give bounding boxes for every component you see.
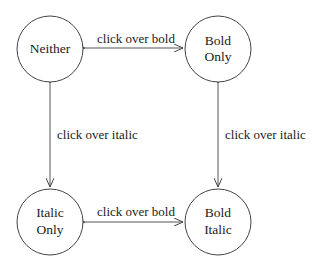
node-bold-only: Bold Only xyxy=(185,16,251,82)
state-diagram: click over bold click over bold click ov… xyxy=(0,0,319,273)
svg-text:Italic: Italic xyxy=(36,205,64,220)
svg-text:Only: Only xyxy=(37,222,64,237)
svg-text:Bold: Bold xyxy=(205,33,232,48)
edge-neither-bold-only: click over bold xyxy=(85,31,183,48)
svg-text:Only: Only xyxy=(205,49,232,64)
edge-neither-italic-only: click over italic xyxy=(50,83,138,187)
svg-text:Neither: Neither xyxy=(30,41,71,56)
node-italic-only: Italic Only xyxy=(17,189,83,255)
svg-text:Italic: Italic xyxy=(204,222,232,237)
edge-label: click over italic xyxy=(225,127,306,142)
node-neither: Neither xyxy=(17,16,83,82)
edge-label: click over bold xyxy=(97,204,175,219)
edge-label: click over italic xyxy=(57,127,138,142)
edge-bold-only-bold-italic: click over italic xyxy=(218,83,306,187)
node-bold-italic: Bold Italic xyxy=(185,189,251,255)
edge-italic-only-bold-italic: click over bold xyxy=(85,204,183,222)
edge-label: click over bold xyxy=(97,31,175,46)
svg-text:Bold: Bold xyxy=(205,205,232,220)
